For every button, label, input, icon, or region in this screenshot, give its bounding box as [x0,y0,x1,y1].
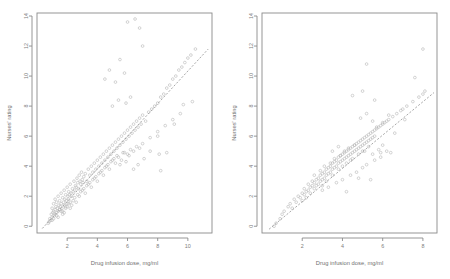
data-point [129,148,132,151]
data-point [373,159,376,162]
data-point [58,199,61,202]
data-point [387,118,390,121]
data-point [393,132,396,135]
y-axis-tick-label: 6 [248,135,254,138]
data-point [111,144,114,147]
y-axis-tick-label: 10 [248,73,254,79]
data-point [191,100,194,103]
data-point [335,181,338,184]
data-point [395,112,398,115]
x-axis-tick-label: 10 [185,243,191,249]
data-point [359,117,362,120]
data-point [102,174,105,177]
data-point [73,180,76,183]
data-point [337,145,340,148]
data-point [159,96,162,99]
data-point [173,123,176,126]
data-point [307,189,310,192]
data-point [313,187,316,190]
data-point [123,72,126,75]
data-point [88,174,91,177]
data-point [120,159,123,162]
data-point [134,18,137,21]
y-axis-tick-label: 12 [248,43,254,49]
data-point [355,171,358,174]
data-point [182,103,185,106]
data-point [78,174,81,177]
data-point [60,192,63,195]
data-point [114,162,117,165]
data-point [149,136,152,139]
data-point [63,189,66,192]
data-point [317,183,320,186]
data-point [341,178,344,181]
data-point [379,151,382,154]
data-points-group [273,48,427,228]
data-point [66,186,69,189]
data-point [422,48,425,51]
data-point [156,135,159,138]
data-point [165,151,168,154]
data-point [91,171,94,174]
data-point [141,45,144,48]
data-point [333,157,336,160]
data-point [80,171,83,174]
data-point [379,156,382,159]
data-point [303,193,306,196]
data-point [365,163,368,166]
data-point [190,54,193,57]
data-point [357,177,360,180]
data-point [125,160,128,163]
data-point [73,196,76,199]
data-point [81,178,84,181]
x-axis-tick-label: 2 [301,243,304,249]
data-point [283,210,286,213]
y-axis-title: Nurses' rating [231,105,237,141]
data-point [84,172,87,175]
data-point [287,205,290,208]
data-point [414,76,417,79]
data-point [361,166,364,169]
data-point [345,190,348,193]
data-point [422,93,425,96]
data-point [345,162,348,165]
data-point [69,207,72,210]
data-point [179,112,182,115]
data-point [180,66,183,69]
data-point [418,96,421,99]
data-point [134,129,137,132]
data-point [317,177,320,180]
data-point [156,130,159,133]
data-point [177,69,180,72]
data-point [126,129,129,132]
data-point [117,99,120,102]
data-point [138,27,141,30]
data-point [377,148,380,151]
data-point [299,196,302,199]
data-point [373,135,376,138]
data-point [369,178,372,181]
data-point [323,177,326,180]
data-point [289,202,292,205]
data-point [311,184,314,187]
data-point [132,150,135,153]
data-point [387,114,390,117]
data-point [120,135,123,138]
data-point [335,165,338,168]
data-point [319,169,322,172]
data-point [187,57,190,60]
data-point [99,156,102,159]
x-axis-tick-label: 8 [156,243,159,249]
y-axis-tick-label: 6 [23,135,29,138]
data-point [389,151,392,154]
x-axis-title: Drug infusion dose, mg/ml [316,260,383,266]
data-point [162,93,165,96]
data-point [339,154,342,157]
data-point [293,198,296,201]
data-point [141,114,144,117]
data-point [313,181,316,184]
data-point [119,58,122,61]
data-point [96,180,99,183]
data-point [114,141,117,144]
data-point [381,144,384,147]
